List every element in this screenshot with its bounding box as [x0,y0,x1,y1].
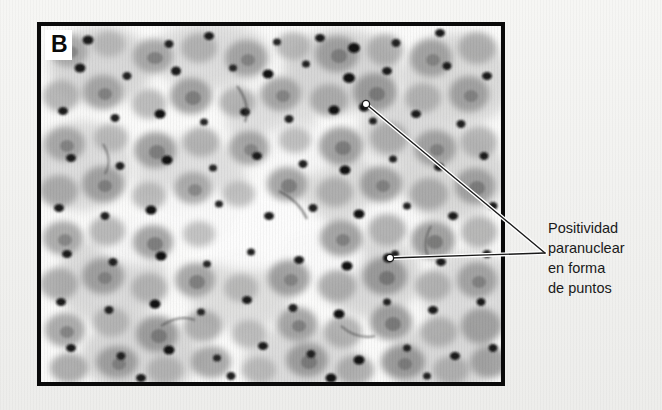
micrograph-image [41,26,501,382]
annotation-line-1: Positividad [548,218,660,238]
annotation-line-3: en forma [548,258,660,278]
micrograph-panel: B [37,22,505,386]
panel-letter-box: B [45,30,72,60]
panel-letter: B [51,33,68,56]
figure-root: B Positividad paranuclear en forma de pu… [0,0,662,410]
annotation-text: Positividad paranuclear en forma de punt… [548,218,660,298]
annotation-line-2: paranuclear [548,238,660,258]
annotation-line-4: de puntos [548,278,660,298]
